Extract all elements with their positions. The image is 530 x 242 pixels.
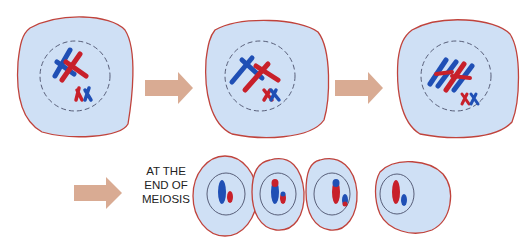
meiosis-diagram [0, 0, 530, 242]
cell-stage-1 [18, 17, 133, 137]
end-of-meiosis-label: AT THE END OF MEIOSIS [134, 164, 198, 206]
daughter-cell-3 [306, 159, 357, 231]
label-line-3: MEIOSIS [134, 192, 198, 206]
daughter-cell-1 [193, 156, 257, 236]
label-line-2: END OF [134, 178, 198, 192]
arrow-icon [145, 72, 193, 104]
arrow-icon [74, 177, 122, 209]
label-line-1: AT THE [134, 164, 198, 178]
daughter-cell-4 [376, 162, 451, 233]
arrow-icon [335, 72, 383, 104]
cell-stage-2 [206, 20, 329, 137]
daughter-cell-2 [252, 159, 304, 231]
cell-stage-3 [398, 20, 519, 138]
